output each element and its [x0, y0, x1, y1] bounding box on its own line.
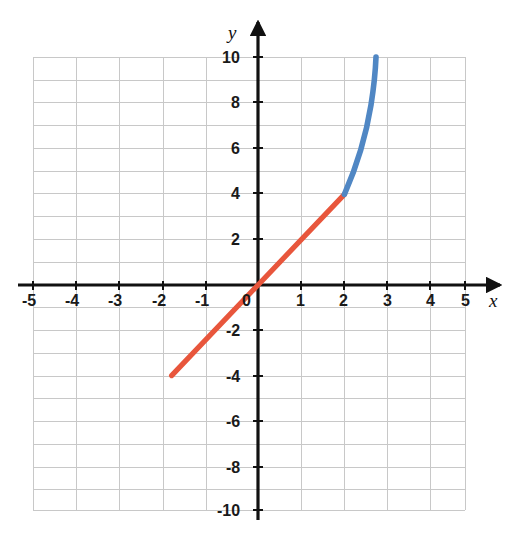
- y-tick-label-2: 2: [231, 232, 240, 248]
- x-tick-label--3: -3: [108, 293, 122, 309]
- x-tick-label--4: -4: [65, 293, 79, 309]
- y-tick-label-8: 8: [231, 95, 240, 111]
- y-tick-label--6: -6: [226, 414, 240, 430]
- x-axis-label: x: [489, 291, 497, 310]
- x-tick-label-3: 3: [383, 293, 392, 309]
- y-tick-label-10: 10: [222, 50, 240, 66]
- x-tick-label-4: 4: [426, 293, 435, 309]
- y-axis-label: y: [228, 23, 236, 42]
- x-tick-label-2: 2: [339, 293, 348, 309]
- y-tick-label--10: -10: [217, 503, 240, 519]
- x-tick-label-1: 1: [296, 293, 305, 309]
- x-tick-label-0: 0: [242, 293, 251, 309]
- curved-segment-path: [344, 57, 376, 194]
- coordinate-graph-figure: -5 -4 -3 -2 -1 0 1 2 3 4 5 10 8 6 4 2 -2…: [0, 0, 525, 537]
- y-tick-label--2: -2: [226, 323, 240, 339]
- x-tick-label--2: -2: [152, 293, 166, 309]
- x-tick-label--5: -5: [22, 293, 36, 309]
- x-tick-label--1: -1: [195, 293, 209, 309]
- plot-canvas: [0, 0, 525, 537]
- y-tick-label-6: 6: [231, 141, 240, 157]
- y-tick-label-4: 4: [231, 186, 240, 202]
- y-tick-label--4: -4: [226, 369, 240, 385]
- y-tick-label--8: -8: [226, 460, 240, 476]
- x-tick-label-5: 5: [461, 293, 470, 309]
